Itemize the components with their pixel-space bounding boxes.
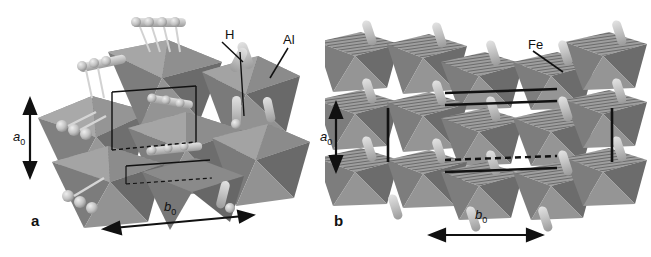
b0-axis-label: b0 [475,208,487,225]
a0-axis-subscript: 0 [327,137,332,147]
panel-a: a0 b0 H Al a [0,0,325,257]
a0-axis-label: a0 [13,130,25,147]
hydrogen-label: H [225,28,234,41]
panel-b: a0 b0 Fe b [325,0,651,257]
a0-axis-subscript: 0 [20,137,25,147]
panel-a-structure-graphic [0,0,325,257]
b0-axis-subscript: 0 [482,215,487,225]
panel-a-letter: a [31,213,39,228]
iron-label: Fe [528,38,543,51]
panel-b-structure-graphic [325,0,651,257]
a0-axis-label: a0 [320,130,332,147]
panel-b-letter: b [334,213,343,228]
hydrogen-atom [231,96,241,129]
octahedra-group-b [325,32,647,220]
aluminium-label: Al [283,33,295,46]
crystal-structure-figure: a0 b0 H Al a [0,0,651,257]
b0-axis-label: b0 [164,200,176,217]
b0-axis-subscript: 0 [171,207,176,217]
octahedron [325,32,399,92]
